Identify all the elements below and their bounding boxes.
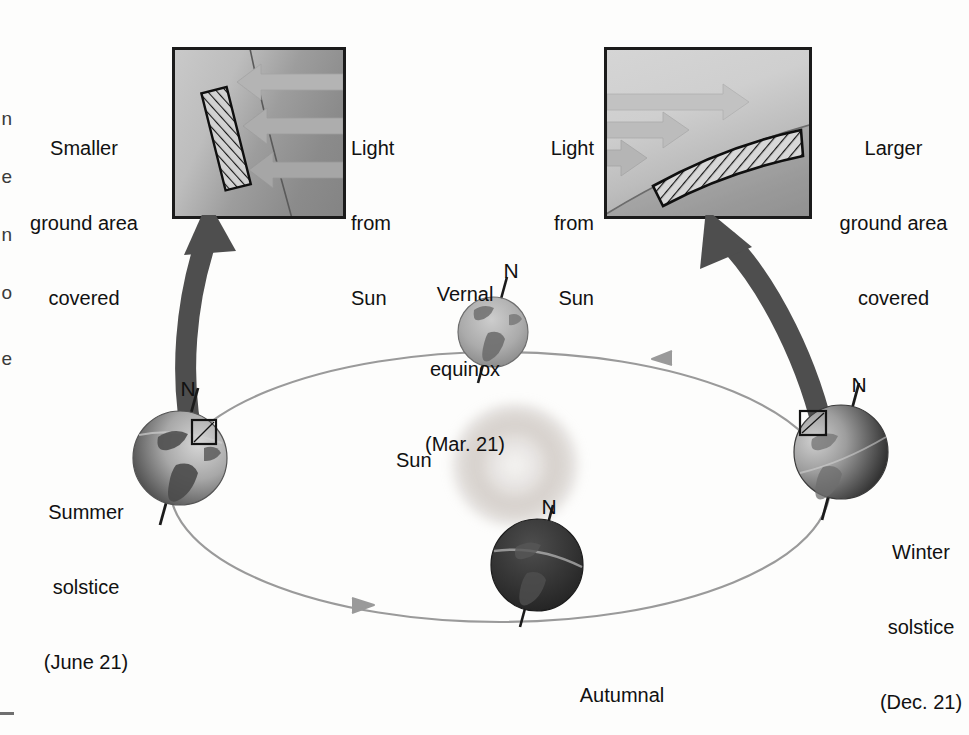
- earth-globe: [794, 405, 888, 499]
- figure-canvas: n e n o e: [0, 0, 969, 735]
- orbit-direction-arrow-top: [652, 351, 672, 365]
- label-autumnal-equinox: Autumnal equinox (Sept. 21): [527, 633, 717, 735]
- label-winter-solstice: Winter solstice (Dec. 21): [846, 490, 969, 735]
- callout-arrow-summer-head: [184, 215, 236, 255]
- label-line: solstice: [846, 615, 969, 640]
- beam-arrow: [607, 112, 689, 148]
- ground-patch-narrow: [201, 87, 250, 190]
- pole-label-summer: N: [175, 376, 201, 401]
- inset-panel-summer: [172, 47, 346, 219]
- light-label-line: Light: [351, 136, 471, 161]
- inset-panel-winter: [604, 47, 812, 219]
- label-line: solstice: [6, 575, 166, 600]
- label-line: Winter: [846, 540, 969, 565]
- beam-arrow: [243, 108, 343, 144]
- beam-arrow: [607, 84, 749, 120]
- beam-arrow: [249, 152, 343, 188]
- label-line: Vernal: [375, 282, 555, 307]
- inset-right-graphics: [607, 50, 809, 216]
- label-line: equinox: [375, 357, 555, 382]
- label-line: Summer: [6, 500, 166, 525]
- label-line: (Dec. 21): [846, 690, 969, 715]
- label-summer-solstice: Summer solstice (June 21): [6, 450, 166, 725]
- caption-line: Larger: [818, 136, 969, 161]
- earth-autumnal-equinox: [491, 505, 583, 627]
- light-beam-arrows: [237, 64, 343, 188]
- pole-label-winter: N: [846, 372, 872, 397]
- inset-left-graphics: [175, 50, 343, 216]
- label-line: (June 21): [6, 650, 166, 675]
- label-line: Autumnal: [527, 683, 717, 708]
- beam-arrow: [237, 64, 343, 100]
- caption-line: Smaller: [0, 136, 168, 161]
- sun-label: Sun: [396, 448, 476, 473]
- light-label-line: Light: [484, 136, 594, 161]
- page-rule: [0, 712, 14, 715]
- beam-arrow: [607, 140, 647, 176]
